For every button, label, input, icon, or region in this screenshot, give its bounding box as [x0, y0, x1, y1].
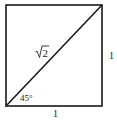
- svg-text:2: 2: [43, 47, 49, 59]
- unit-square-diagram: 2 45° 1 1: [0, 0, 117, 121]
- diagonal: [6, 5, 102, 106]
- bottom-side-label: 1: [53, 108, 58, 119]
- right-side-label: 1: [109, 50, 114, 61]
- diagonal-label: 2: [36, 46, 50, 59]
- angle-label: 45°: [20, 93, 33, 103]
